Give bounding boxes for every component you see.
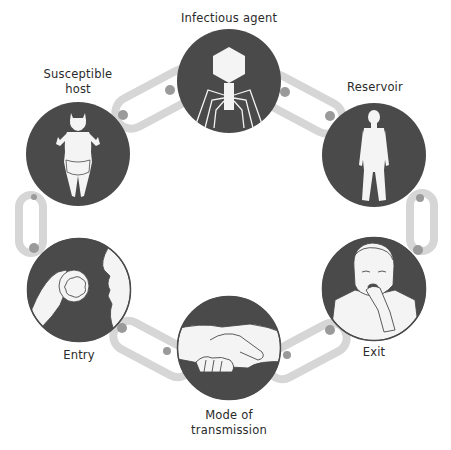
label-exit: Exit xyxy=(363,345,386,360)
node-reservoir xyxy=(322,103,426,207)
node-exit xyxy=(322,237,426,342)
label-infectious-agent: Infectious agent xyxy=(181,11,277,26)
chain-of-infection-diagram: Infectious agent Reservoir Exit Mode of … xyxy=(0,0,451,450)
node-infectious-agent xyxy=(177,29,281,133)
node-mode-of-transmission xyxy=(172,296,286,400)
chain-link-entry-host xyxy=(19,194,43,253)
label-mode-of-transmission: Mode of transmission xyxy=(191,408,267,438)
node-susceptible-host xyxy=(26,102,130,206)
label-entry: Entry xyxy=(63,348,95,363)
chain-link-reservoir-exit xyxy=(410,193,434,255)
label-reservoir: Reservoir xyxy=(347,80,403,95)
label-susceptible-host: Susceptible host xyxy=(44,67,113,97)
